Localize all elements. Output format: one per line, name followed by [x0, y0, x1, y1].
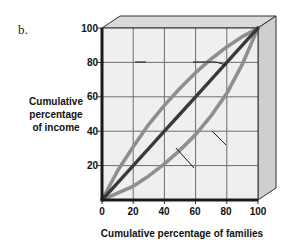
lorenz-curve-figure: b. Cumulative percentage of income Cumul…: [0, 0, 303, 251]
plot-box-right-face: [258, 16, 276, 200]
plot-box-top-face: [102, 16, 276, 28]
chart-canvas: [0, 0, 303, 251]
